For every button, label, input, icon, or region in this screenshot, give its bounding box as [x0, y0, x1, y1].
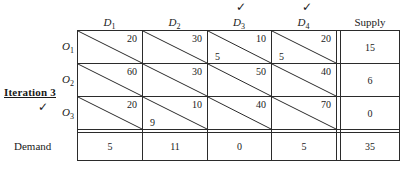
column-header-d1: D1	[77, 16, 142, 31]
cost-o2-d4: 40	[321, 66, 331, 77]
transportation-tableau: Iteration 3 ✓ ✓ ✓ D1 D2 D3 D4 Supply O1 …	[0, 0, 400, 171]
demand-d1: 5	[78, 133, 142, 160]
cost-o1-d1: 20	[127, 33, 137, 44]
cell-o2-d1[interactable]: 60	[78, 64, 142, 96]
checkmark-row-o3: ✓	[38, 101, 48, 113]
cost-o1-d4: 20	[321, 33, 331, 44]
cell-o2-d2[interactable]: 30	[143, 64, 207, 96]
column-header-supply: Supply	[340, 16, 400, 28]
grand-total: 35	[341, 133, 399, 160]
demand-d4: 5	[272, 133, 336, 160]
cost-o3-d4: 70	[321, 99, 331, 110]
row-header-demand: Demand	[14, 140, 51, 152]
cell-o3-d2[interactable]: 10 9	[143, 97, 207, 129]
row-header-o2-sub: 2	[70, 79, 74, 88]
cell-o3-d1[interactable]: 20	[78, 97, 142, 129]
demand-d3: 0	[208, 133, 271, 160]
column-header-d2: D2	[142, 16, 207, 31]
cost-o2-d3: 50	[256, 66, 266, 77]
cost-o3-d1: 20	[127, 99, 137, 110]
grid-line-r3	[77, 129, 400, 130]
row-header-o1-base: O	[62, 40, 70, 52]
allocation-o3-d2: 9	[150, 117, 155, 128]
cost-o1-d3: 10	[256, 33, 266, 44]
iteration-label: Iteration 3	[4, 86, 56, 98]
checkmark-column-d4: ✓	[302, 1, 312, 13]
cost-o3-d3: 40	[256, 99, 266, 110]
cell-o1-d4[interactable]: 20 5	[272, 31, 336, 63]
checkmark-column-d3: ✓	[236, 1, 246, 13]
cost-o2-d1: 60	[127, 66, 137, 77]
cost-o3-d2: 10	[192, 99, 202, 110]
allocation-o1-d4: 5	[279, 51, 284, 62]
cell-o2-d4[interactable]: 40	[272, 64, 336, 96]
cost-o2-d2: 30	[192, 66, 202, 77]
grid-line-c4	[336, 30, 337, 160]
cell-o2-d3[interactable]: 50	[208, 64, 271, 96]
row-header-o3-sub: 3	[70, 112, 74, 121]
grid-line-bottom	[77, 160, 400, 161]
column-header-d3-base: D	[233, 16, 241, 28]
column-header-d3: D3	[207, 16, 271, 31]
row-header-o3-base: O	[62, 106, 70, 118]
allocation-o1-d3: 5	[215, 51, 220, 62]
column-header-d4: D4	[271, 16, 336, 31]
cell-o1-d1[interactable]: 20	[78, 31, 142, 63]
supply-o2: 6	[341, 64, 399, 96]
cost-o1-d2: 30	[192, 33, 202, 44]
demand-d2: 11	[143, 133, 207, 160]
cell-o3-d3[interactable]: 40	[208, 97, 271, 129]
row-header-o1: O1	[52, 40, 74, 55]
row-header-o3: O3	[52, 106, 74, 121]
row-header-o1-sub: 1	[70, 46, 74, 55]
row-header-o2: O2	[52, 73, 74, 88]
supply-o3: 0	[341, 97, 399, 129]
cell-o1-d3[interactable]: 10 5	[208, 31, 271, 63]
cell-o1-d2[interactable]: 30	[143, 31, 207, 63]
row-header-o2-base: O	[62, 73, 70, 85]
supply-o1: 15	[341, 31, 399, 63]
cell-o3-d4[interactable]: 70	[272, 97, 336, 129]
